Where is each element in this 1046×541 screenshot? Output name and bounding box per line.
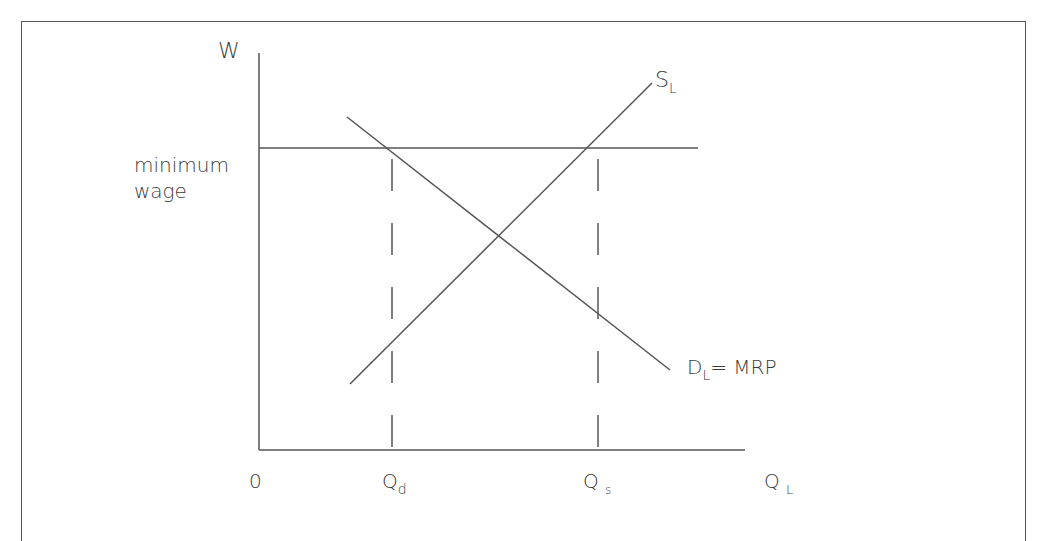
qd-label: Qd xyxy=(382,471,407,491)
demand-label-main: D xyxy=(687,355,702,379)
qd-label-main: Q xyxy=(382,469,398,493)
x-axis-label-main: Q xyxy=(764,469,780,493)
minimum-wage-line1: minimum xyxy=(134,155,229,175)
supply-label-sub: L xyxy=(669,80,677,96)
supply-label: SL xyxy=(655,69,677,91)
supply-label-main: S xyxy=(655,67,669,92)
demand-label-suffix: = MRP xyxy=(710,355,776,379)
qd-label-sub: d xyxy=(398,481,407,497)
y-axis-label: W xyxy=(218,40,240,62)
supply-curve xyxy=(350,83,652,384)
x-axis-label-sub: L xyxy=(786,482,793,497)
x-axis-label: Q L xyxy=(764,471,793,491)
demand-curve xyxy=(347,117,670,370)
demand-label-sub: L xyxy=(702,367,710,383)
minimum-wage-label: minimum wage xyxy=(134,155,229,201)
demand-label: DL= MRP xyxy=(687,357,777,377)
minimum-wage-line2: wage xyxy=(134,181,229,201)
qs-label-main: Q xyxy=(583,469,599,493)
origin-label: 0 xyxy=(249,471,262,491)
qs-label: Q s xyxy=(583,471,611,491)
qs-label-sub: s xyxy=(605,483,611,497)
